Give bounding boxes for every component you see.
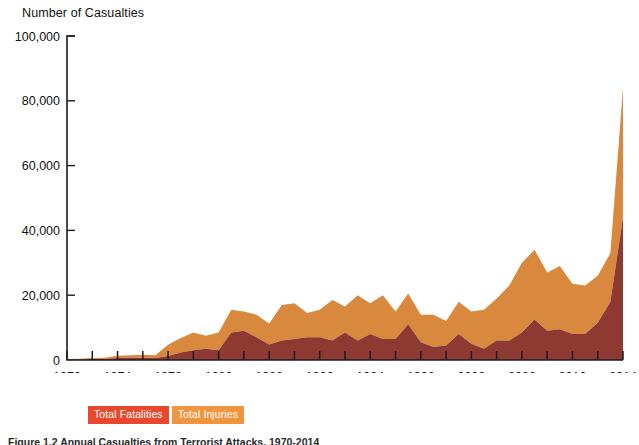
area-chart-svg: 020,00040,00060,00080,000100,000 1970197… bbox=[0, 28, 639, 373]
chart-legend: Total Fatalities Total Injuries bbox=[88, 406, 244, 424]
legend-item-injuries[interactable]: Total Injuries bbox=[172, 406, 244, 424]
figure-container: Number of Casualties 020,00040,00060,000… bbox=[0, 0, 639, 445]
page-title: Number of Casualties bbox=[22, 6, 144, 20]
y-tick-label: 40,000 bbox=[22, 224, 60, 238]
y-tick-label: 0 bbox=[53, 354, 60, 368]
x-tick-label: 1982 bbox=[205, 370, 233, 373]
x-tick-label: 2010 bbox=[559, 370, 587, 373]
x-tick-label: 1986 bbox=[255, 370, 283, 373]
y-tick-label: 20,000 bbox=[22, 289, 60, 303]
y-tick-label: 100,000 bbox=[15, 30, 60, 44]
y-tick-label: 60,000 bbox=[22, 159, 60, 173]
plot-area: 020,00040,00060,00080,000100,000 1970197… bbox=[0, 28, 639, 373]
chart-areas bbox=[67, 88, 623, 360]
x-tick-label: 1978 bbox=[154, 370, 182, 373]
x-tick-label: 2006 bbox=[508, 370, 536, 373]
area-total-injuries bbox=[67, 88, 623, 360]
x-tick-label: 2002 bbox=[457, 370, 485, 373]
figure-caption: Figure 1.2 Annual Casualties from Terror… bbox=[8, 436, 319, 445]
y-tick-label: 80,000 bbox=[22, 94, 60, 108]
x-tick-label: 1998 bbox=[407, 370, 435, 373]
x-tick-label: 1990 bbox=[306, 370, 334, 373]
x-tick-label: 1994 bbox=[356, 370, 384, 373]
y-axis-tick-labels: 020,00040,00060,00080,000100,000 bbox=[15, 30, 60, 368]
x-axis-tick-labels: 1970197419781982198619901994199820022006… bbox=[53, 370, 637, 373]
x-tick-label: 2014 bbox=[609, 370, 637, 373]
legend-item-fatalities[interactable]: Total Fatalities bbox=[88, 406, 169, 424]
x-tick-label: 1970 bbox=[53, 370, 81, 373]
x-tick-label: 1974 bbox=[104, 370, 132, 373]
